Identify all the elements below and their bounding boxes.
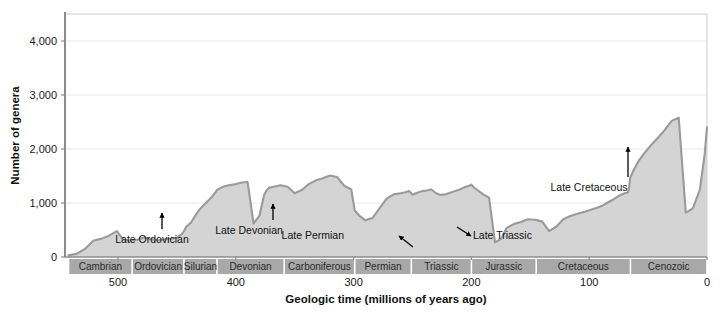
annotation-label-late-cretaceous: Late Cretaceous — [550, 181, 627, 193]
period-label: Jurassic — [485, 261, 522, 272]
period-label: Permian — [364, 261, 401, 272]
x-tick-label: 100 — [580, 276, 598, 288]
y-axis-title: Number of genera — [9, 86, 21, 185]
period-label: Cenozoic — [648, 261, 690, 272]
x-axis-title: Geologic time (millions of years ago) — [285, 293, 486, 305]
period-label: Devonian — [229, 261, 271, 272]
figure-container: 01,0002,0003,0004,000Number of generaCam… — [0, 0, 722, 317]
y-tick-label: 3,000 — [29, 89, 57, 101]
x-tick-label: 500 — [109, 276, 127, 288]
x-tick-label: 300 — [344, 276, 362, 288]
y-tick-label: 1,000 — [29, 197, 57, 209]
x-tick-label: 0 — [704, 276, 710, 288]
genera-diversity-chart: 01,0002,0003,0004,000Number of generaCam… — [0, 0, 722, 317]
y-tick-label: 0 — [51, 251, 57, 263]
annotation-label-late-triassic: Late Triassic — [473, 229, 532, 241]
period-label: Ordovician — [134, 261, 182, 272]
period-label: Triassic — [424, 261, 458, 272]
annotation-label-late-ordovician: Late Ordovician — [115, 233, 189, 245]
period-label: Carboniferous — [288, 261, 351, 272]
x-tick-label: 200 — [462, 276, 480, 288]
period-label: Silurian — [184, 261, 217, 272]
x-tick-label: 400 — [227, 276, 245, 288]
annotation-label-late-permian: Late Permian — [282, 229, 345, 241]
period-label: Cretaceous — [558, 261, 609, 272]
annotation-label-late-devonian: Late Devonian — [215, 224, 283, 236]
period-label: Cambrian — [79, 261, 122, 272]
y-tick-label: 2,000 — [29, 143, 57, 155]
y-tick-label: 4,000 — [29, 35, 57, 47]
